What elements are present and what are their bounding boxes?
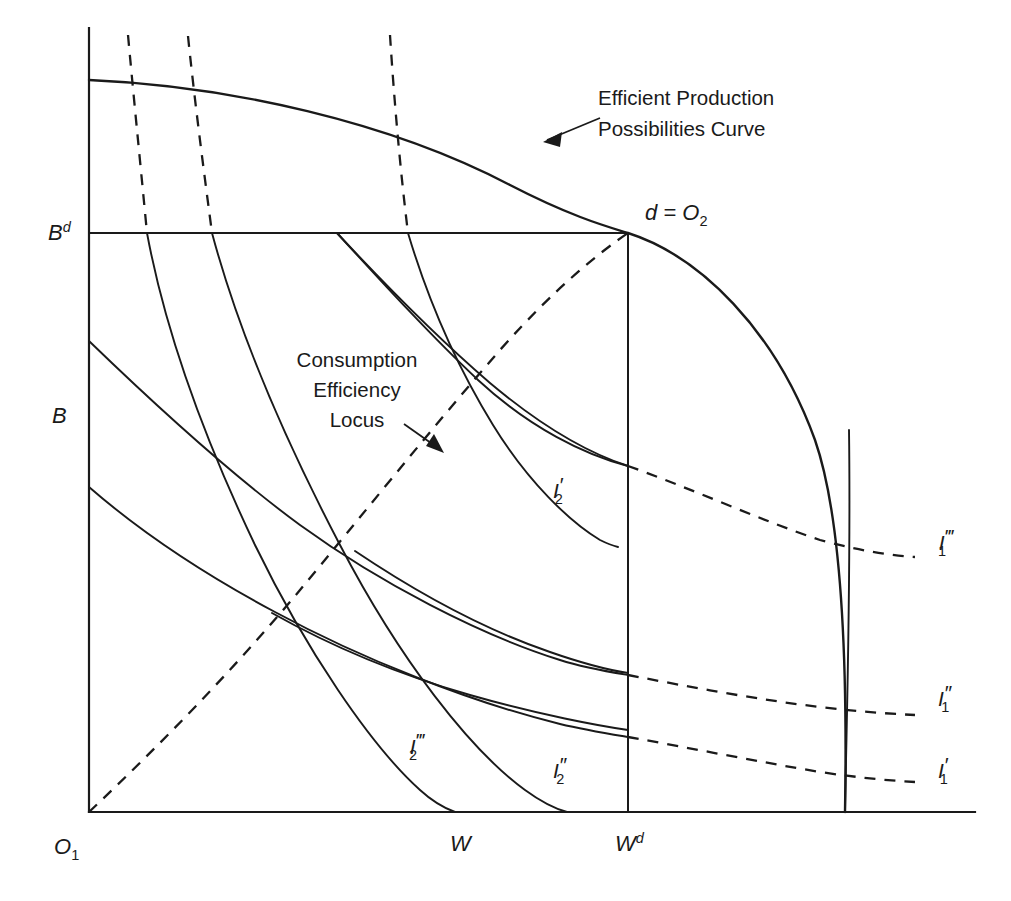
label-w-axis: W bbox=[450, 831, 473, 856]
ppf-annotation-line2: Possibilities Curve bbox=[598, 117, 765, 140]
label-corner-sub: 2 bbox=[699, 213, 707, 229]
indifference-curve-I2-prime-dashed-upper bbox=[390, 35, 408, 233]
label-w-superscript-d: Wd bbox=[615, 830, 645, 856]
right-vertical-boundary-curve bbox=[845, 430, 850, 812]
label-corner-base: d = O bbox=[645, 200, 699, 225]
indifference-curve-I2-prime-solid bbox=[408, 233, 618, 547]
curve-label-I2-prime: I′2 bbox=[553, 473, 564, 507]
ppf-annotation-group: Efficient Production Possibilities Curve bbox=[543, 86, 774, 147]
indifference-curve-I1-prime-solid bbox=[89, 487, 628, 737]
curve-label-I2-dprime-sub: 2 bbox=[556, 771, 564, 787]
indifference-curve-I1-prime-dashed bbox=[628, 737, 915, 782]
right-boundary-group bbox=[845, 430, 850, 812]
consumption-efficiency-locus-group bbox=[89, 233, 628, 812]
edgeworth-box-diagram: Efficient Production Possibilities Curve… bbox=[0, 0, 1011, 901]
curve-label-I1-tprime-sub: 1 bbox=[938, 543, 946, 559]
label-origin-1-sub: 1 bbox=[71, 847, 79, 863]
curve-label-I2-prime-sub: 2 bbox=[555, 491, 563, 507]
ppf-arrow-icon bbox=[543, 132, 562, 147]
curve-label-I1-double-prime: I″1 bbox=[938, 681, 953, 715]
curve-label-I1-prime: I′1 bbox=[938, 753, 949, 787]
label-b-superscript-d: Bd bbox=[48, 219, 72, 245]
curve-labels-group: I′1 I″1 I‴1 I′2 I″2 I‴2 bbox=[409, 473, 955, 787]
indifference-curve-I1-double-prime-dashed bbox=[628, 675, 915, 715]
indifference-curve-I2-triple-prime-dashed-upper bbox=[128, 35, 147, 233]
diagram-root: Efficient Production Possibilities Curve… bbox=[0, 0, 1011, 901]
ppf-annotation-line1: Efficient Production bbox=[598, 86, 774, 109]
curve-label-I1-dprime-sub: 1 bbox=[941, 699, 949, 715]
label-b-axis: B bbox=[52, 403, 67, 428]
label-b-d-base: B bbox=[48, 220, 63, 245]
locus-annotation-line3: Locus bbox=[330, 408, 385, 431]
edgeworth-box-group bbox=[89, 233, 628, 812]
lower-branch-curve-b bbox=[355, 551, 628, 673]
curve-label-I2-tprime-sub: 2 bbox=[409, 747, 417, 763]
locus-arrow-icon bbox=[426, 434, 444, 453]
consumption-efficiency-locus-curve bbox=[89, 233, 628, 812]
curve-label-I2-double-prime: I″2 bbox=[553, 753, 568, 787]
axes-group bbox=[89, 28, 975, 812]
curve-label-I1-triple-prime: I‴1 bbox=[938, 525, 955, 559]
indifference-curve-I1-triple-prime-dashed bbox=[628, 466, 915, 557]
lower-branch-curves bbox=[272, 551, 628, 730]
label-origin-1-base: O bbox=[54, 834, 71, 859]
locus-annotation-line2: Efficiency bbox=[313, 378, 401, 401]
label-w-d-sup: d bbox=[636, 830, 645, 846]
locus-annotation-group: Consumption Efficiency Locus bbox=[297, 348, 444, 453]
label-w-d-base: W bbox=[615, 831, 638, 856]
indifference-curve-I2-triple-prime-solid bbox=[147, 233, 455, 812]
label-b-d-sup: d bbox=[63, 219, 72, 235]
label-corner-point-d-equals-o2: d = O2 bbox=[645, 200, 708, 229]
indifference-curve-I2-double-prime-solid bbox=[212, 233, 567, 812]
axis-labels-group: Bd B O1 W Wd d = O2 bbox=[48, 200, 708, 863]
curve-label-I2-triple-prime: I‴2 bbox=[409, 729, 426, 763]
locus-annotation-line1: Consumption bbox=[297, 348, 418, 371]
curve-label-I1-prime-sub: 1 bbox=[940, 771, 948, 787]
label-origin-1: O1 bbox=[54, 834, 79, 863]
indifference-curve-I2-double-prime-dashed-upper bbox=[188, 36, 212, 233]
indifference-curves-consumer-1 bbox=[89, 233, 915, 782]
